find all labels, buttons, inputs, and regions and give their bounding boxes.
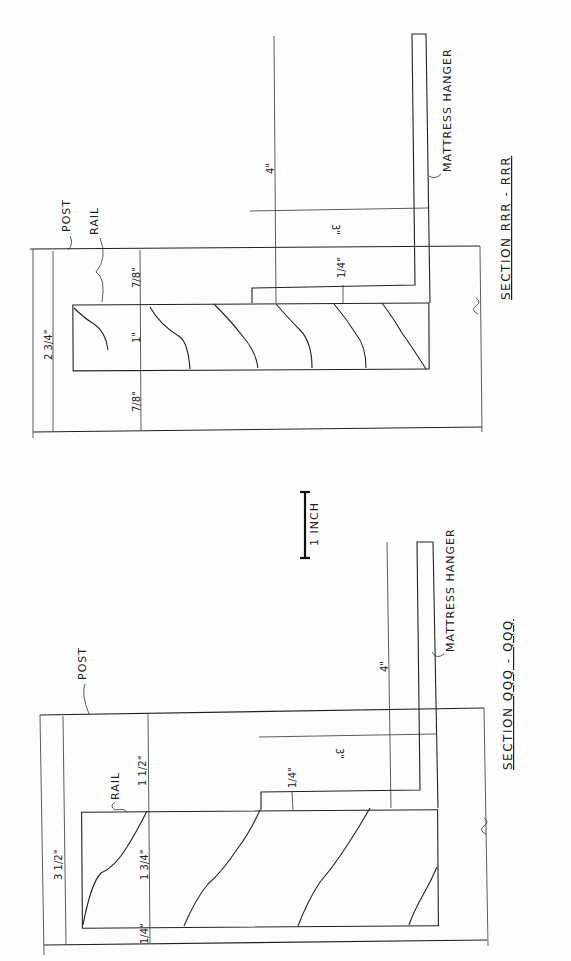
post-top-edge [40,708,484,715]
dim-bottom-gap-label: 1/4" [139,923,150,944]
dim-hanger-thickness [292,792,293,810]
break-symbol [473,298,479,314]
dim-top-gap-label: 1 1/2" [137,756,148,786]
dim-rail-label: 1" [131,332,142,343]
rail-grain [298,808,370,926]
dim-hanger-thickness-label: 1/4" [336,257,347,278]
dim-hanger-height [387,542,391,808]
dim-bottom-gap-label: 7/8" [131,391,142,412]
dim-hanger-offset [259,734,437,737]
rail-grain [83,811,147,925]
rail-leader [96,238,103,302]
technical-drawing: POST RAIL MATTRESS HANGER SECTION RRR - … [0,0,571,961]
section-title: SECTION QQQ - QQQ [501,619,515,770]
dim-overall [63,716,66,944]
rail-grain [184,810,260,926]
dim-rail-label: 1 3/4" [139,850,150,880]
dim-hanger-thickness-label: 1/4" [287,767,298,788]
section-title: SECTION RRR - RRR [499,156,513,300]
post-bottom-edge [44,940,487,945]
post-label: POST [76,647,89,680]
dim-hanger-offset [250,208,428,211]
rail-label: RAIL [109,772,122,800]
dim-top-gap-label: 7/8" [131,267,142,288]
rail-grain [382,303,426,369]
post-leader [84,684,89,714]
post-label: POST [60,199,73,232]
section-qqq: POST RAIL MATTRESS HANGER SECTION QQQ - … [40,528,515,955]
dim-rail-line [148,714,150,943]
rail-grain [150,307,190,369]
hanger-leader [432,652,444,657]
rail-grain [74,308,108,350]
dim-hanger-height-label: 4" [379,661,390,672]
hanger-label: MATTRESS HANGER [444,528,457,652]
rail-leader [112,802,127,812]
rail-grain [334,304,366,368]
rail-grain [409,867,437,925]
post-leader [68,236,72,250]
ext-line [40,715,44,955]
dim-hanger-offset-label: 3" [330,224,341,235]
post-top-edge [30,246,480,249]
dim-overall-label: 3 1/2" [53,850,64,880]
section-rrr: POST RAIL MATTRESS HANGER SECTION RRR - … [30,34,513,438]
scale-bar: 1 INCH [300,492,321,558]
rail-rect [73,303,429,371]
rail-grain [214,304,258,368]
rail-grain [276,304,312,368]
hanger-leader [429,174,441,178]
dim-hanger-offset-label: 3" [334,748,345,759]
hanger-label: MATTRESS HANGER [441,48,454,172]
post-break-line [484,708,488,946]
dim-overall-label: 2 3/4" [43,330,54,360]
drawing-sheet: POST RAIL MATTRESS HANGER SECTION RRR - … [0,0,571,961]
rail-label: RAIL [88,207,101,235]
post-bottom-edge [33,427,482,432]
rail-rect [82,810,439,928]
scale-label: 1 INCH [308,502,321,546]
dim-hanger-height-label: 4" [265,163,276,174]
post-break-line [480,246,482,432]
